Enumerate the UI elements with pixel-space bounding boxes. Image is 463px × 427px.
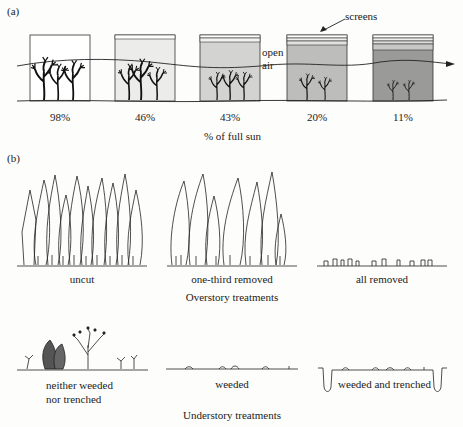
pct-label-11: 11% xyxy=(373,111,433,123)
axis-caption-full-sun: % of full sun xyxy=(180,130,285,142)
understory-neither-weeded-nor-trenched xyxy=(17,327,148,370)
shade-box-11 xyxy=(373,35,433,101)
overstory-one-third-removed-trees xyxy=(167,172,297,266)
understory-caption: Understory treatments xyxy=(157,409,307,421)
shade-box-20 xyxy=(287,35,347,101)
overstory-label-all-removed: all removed xyxy=(317,273,447,285)
panel-a-label: (a) xyxy=(7,5,19,17)
pct-label-43: 43% xyxy=(200,111,260,123)
pct-label-46: 46% xyxy=(115,111,175,123)
understory-weeded xyxy=(166,366,298,369)
understory-label-weeded-and-trenched: weeded and trenched xyxy=(327,378,442,390)
understory-label-weeded: weeded xyxy=(167,378,297,390)
overstory-label-one-third-removed: one-third removed xyxy=(167,273,297,285)
understory-label-neither: neither weeded nor trenched xyxy=(46,378,113,406)
open-air-label: open air xyxy=(262,46,283,72)
pct-label-20: 20% xyxy=(287,111,347,123)
panel-b-label: (b) xyxy=(7,152,20,164)
open-air-label-line2: air xyxy=(262,59,283,72)
pct-label-98: 98% xyxy=(30,111,90,123)
shade-box-46 xyxy=(115,35,175,101)
understory-label-neither-line1: neither weeded xyxy=(46,378,113,392)
overstory-uncut-trees xyxy=(17,174,147,266)
overstory-label-uncut: uncut xyxy=(17,273,147,285)
screens-label: screens xyxy=(345,10,377,22)
overstory-all-removed-stumps xyxy=(317,259,447,266)
open-air-label-line1: open xyxy=(262,46,283,59)
overstory-caption: Overstory treatments xyxy=(157,291,307,303)
diagram-artwork xyxy=(0,0,463,427)
understory-label-neither-line2: nor trenched xyxy=(46,392,113,406)
arrow-head-icon xyxy=(446,61,455,67)
